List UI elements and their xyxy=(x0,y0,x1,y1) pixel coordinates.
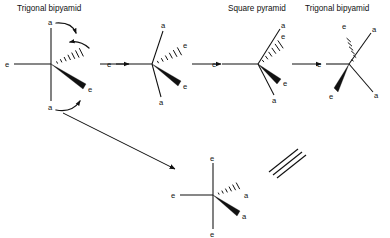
label-axial-a-lower: a xyxy=(374,91,379,100)
title-square-pyramid: Square pyramid xyxy=(228,4,286,13)
bond-axial-upper xyxy=(349,33,371,64)
reaction-arrow-diagonal xyxy=(63,113,175,169)
structure-trigonal-bipyramid-rotated: e e e a a xyxy=(171,154,249,238)
label-axial-a-lower: a xyxy=(272,96,277,105)
label-axial-a-lower: a xyxy=(159,98,164,107)
bond-hashed-wedge-equatorial xyxy=(57,48,84,63)
label-axial-a-upper: a xyxy=(281,21,286,30)
bond-solid-wedge-equatorial xyxy=(51,64,86,89)
structure-trigonal-bipyramid-product: e a e e a xyxy=(317,22,379,101)
bond-solid-wedge-equatorial xyxy=(258,64,281,84)
label-equatorial-e-wedge: e xyxy=(88,85,92,94)
label-axial-a-bottom: a xyxy=(48,103,53,112)
label-equatorial-e-wedge: e xyxy=(283,79,287,88)
label-equatorial-e-left: e xyxy=(317,60,321,69)
label-e-top: e xyxy=(210,154,214,163)
curly-arrow-top xyxy=(56,23,76,33)
curly-arrow-middle xyxy=(70,42,89,48)
bond-hashed-wedge-equatorial xyxy=(157,47,181,63)
triple-parallel-lines-icon xyxy=(269,149,306,178)
label-e-left: e xyxy=(171,191,175,200)
bond-axial-lower xyxy=(258,64,274,95)
bond-solid-wedge xyxy=(213,195,240,216)
titles-group: Trigonal bipyamid Square pyramid Trigona… xyxy=(17,4,370,13)
label-equatorial-e-wedge: e xyxy=(183,82,187,91)
curly-arrow-bottom xyxy=(56,101,80,111)
bond-solid-wedge-equatorial xyxy=(334,64,349,92)
label-a-solid: a xyxy=(242,212,247,221)
label-e-bottom: e xyxy=(210,230,214,238)
label-equatorial-e-hash: e xyxy=(281,32,285,41)
structure-square-pyramid: a e e a e xyxy=(212,21,287,105)
diagram-canvas: Trigonal bipyamid Square pyramid Trigona… xyxy=(0,0,390,238)
label-equatorial-e-wedge: e xyxy=(329,92,333,101)
title-trigonal-bipyramid-left: Trigonal bipyamid xyxy=(17,4,82,13)
label-equatorial-e-hash: e xyxy=(183,41,187,50)
bond-axial-lower xyxy=(349,64,373,92)
title-trigonal-bipyramid-right: Trigonal bipyamid xyxy=(305,4,370,13)
structure-trigonal-bipyramid-start: a a e e xyxy=(5,18,92,112)
label-equatorial-e-hash: e xyxy=(342,22,346,31)
label-equatorial-e-left: e xyxy=(212,60,216,69)
label-axial-a-top: a xyxy=(48,18,53,27)
bond-hashed-wedge-equatorial xyxy=(262,40,283,62)
label-axial-a-upper: a xyxy=(372,25,377,34)
bond-solid-wedge-equatorial xyxy=(152,64,181,86)
label-equatorial-e-left: e xyxy=(5,60,9,69)
structure-trigonal-bipyramid-bending: a a e e e xyxy=(107,21,187,107)
label-equatorial-e-left: e xyxy=(107,60,111,69)
label-axial-a-upper: a xyxy=(161,21,166,30)
label-a-hashed: a xyxy=(244,191,249,200)
bond-hashed-wedge xyxy=(218,183,240,195)
bond-hashed-wedge-equatorial xyxy=(347,38,357,61)
diagram-svg: Trigonal bipyamid Square pyramid Trigona… xyxy=(0,0,390,238)
